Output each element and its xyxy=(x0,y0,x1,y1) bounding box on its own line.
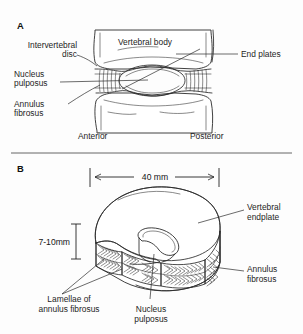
width-dimension-value: 40 mm xyxy=(142,172,168,182)
annulus-lamellae-right xyxy=(186,70,207,92)
label-end-plates: End plates xyxy=(241,49,281,59)
label-anterior: Anterior xyxy=(78,131,108,141)
label-annulus-fibrosus-b-line2: fibrosus xyxy=(247,274,276,284)
panel-b-group: B 40 mm 7-10mm xyxy=(17,163,281,324)
label-posterior: Posterior xyxy=(190,131,224,141)
panel-a-group: A xyxy=(14,20,281,141)
figure-root: A xyxy=(0,0,303,334)
label-nucleus-pulposus-b-line1: Nucleus xyxy=(136,304,166,314)
leader-nucleus-pulposus xyxy=(60,80,148,82)
width-dimension: 40 mm xyxy=(90,168,219,187)
height-dimension-value: 7-10mm xyxy=(38,237,70,247)
label-nucleus-pulposus-line2: pulposus xyxy=(14,78,48,88)
label-vertebral-body: Vertebral body xyxy=(118,37,173,47)
label-lamellae-line2: annulus fibrosus xyxy=(39,304,100,314)
height-dimension: 7-10mm xyxy=(38,224,81,259)
anatomy-figure-svg: A xyxy=(0,0,303,334)
label-vertebral-endplate-line1: Vertebral xyxy=(247,202,281,212)
label-annulus-fibrosus-b-line1: Annulus xyxy=(247,264,277,274)
nucleus-inner-arc-bottom xyxy=(126,86,179,93)
label-lamellae-line1: Lamellae of xyxy=(47,294,91,304)
label-vertebral-endplate-line2: endplate xyxy=(247,212,279,222)
leader-lamellae-lower xyxy=(62,269,122,294)
label-intervertebral-disc-line2: disc xyxy=(62,49,77,59)
leader-lamellae-upper xyxy=(62,259,104,294)
upper-vertebral-body xyxy=(94,30,212,69)
panel-b-disc-drawing xyxy=(95,187,220,291)
panel-a-letter: A xyxy=(17,20,24,31)
label-annulus-fibrosus-line2: fibrosus xyxy=(14,108,43,118)
leader-annulus-fibrosus xyxy=(68,85,100,104)
panel-b-letter: B xyxy=(17,163,24,174)
label-nucleus-pulposus-b-line2: pulposus xyxy=(134,314,168,324)
nucleus-inner-arc-top xyxy=(126,69,179,76)
